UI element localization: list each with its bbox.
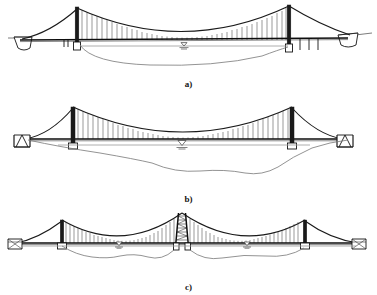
riverbed-profile-left	[62, 246, 174, 258]
tower-left	[71, 107, 75, 147]
hanger-group-span-1	[66, 219, 174, 243]
bridge-diagram-a	[0, 0, 377, 72]
riverbed-profile	[80, 45, 288, 65]
abutment-right	[338, 33, 358, 47]
bridge-diagram-b	[0, 95, 377, 183]
main-cable-backstay-right	[305, 221, 358, 243]
approach-pier-group-right	[300, 39, 318, 51]
bridge-diagram-c	[0, 207, 377, 275]
panel-caption-c: c)	[0, 281, 377, 293]
tower-left	[75, 7, 79, 42]
tower-foundation-left	[74, 42, 81, 50]
tower-left	[58, 220, 67, 249]
tower-right	[287, 5, 291, 44]
main-cable-backstay-left	[22, 9, 77, 39]
anchor-block-right	[352, 239, 366, 249]
figure-panel-c: c)	[0, 207, 377, 295]
main-cable-backstay-right	[292, 108, 343, 139]
hanger-group	[78, 109, 288, 139]
figure-panel-b: b)	[0, 95, 377, 207]
bridge-figure: a)	[0, 0, 377, 295]
main-cable-backstay-left	[16, 221, 62, 243]
anchor-block-left	[14, 135, 30, 147]
riverbed-profile-right	[190, 248, 304, 259]
main-cable-main-span	[73, 107, 292, 132]
anchor-block-left	[8, 239, 22, 249]
tower-foundation-right	[288, 143, 297, 149]
main-cable-backstay-left	[25, 108, 73, 139]
tower-right	[290, 107, 294, 147]
figure-panel-a: a)	[0, 0, 377, 95]
panel-caption-b: b)	[0, 193, 377, 205]
hanger-group-span-2	[190, 219, 298, 243]
hanger-group	[82, 8, 286, 40]
main-cable-main-span-1	[62, 213, 182, 236]
tower-right	[301, 220, 310, 249]
main-cable-backstay-right	[289, 6, 350, 35]
main-cable-main-span-2	[182, 213, 305, 236]
tower-foundation-right	[286, 44, 293, 52]
panel-caption-a: a)	[0, 78, 377, 90]
